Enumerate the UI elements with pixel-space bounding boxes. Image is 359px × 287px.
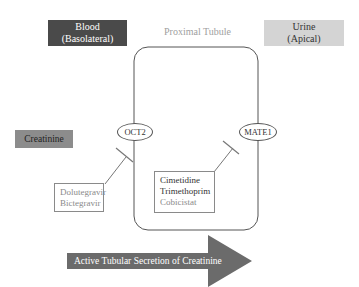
mate1-transporter: MATE1 — [239, 123, 277, 141]
drug-bictegravir: Bictegravir — [60, 198, 98, 209]
blood-basolateral-box: Blood (Basolateral) — [48, 20, 127, 46]
drug-dolutegravir: Dolutegravir — [60, 187, 98, 198]
proximal-tubule-label: Proximal Tubule — [164, 26, 231, 37]
apical-label: (Apical) — [264, 33, 344, 45]
mate1-inhibitors-box: Cimetidine Trimethoprim Cobicistat — [154, 171, 215, 213]
drug-cobicistat: Cobicistat — [160, 197, 209, 208]
drug-cimetidine: Cimetidine — [160, 175, 209, 186]
secretion-arrow-label: Active Tubular Secretion of Creatinine — [74, 253, 222, 270]
urine-apical-box: Urine (Apical) — [264, 20, 344, 46]
oct2-inhibition-bar — [116, 148, 133, 162]
mate1-inhibition-line — [214, 148, 233, 172]
urine-label: Urine — [264, 21, 344, 33]
drug-trimethoprim: Trimethoprim — [160, 186, 209, 197]
basolateral-label: (Basolateral) — [48, 33, 127, 45]
blood-label: Blood — [48, 21, 127, 33]
oct2-transporter: OCT2 — [117, 123, 153, 141]
creatinine-box: Creatinine — [15, 130, 73, 148]
mate1-inhibition-bar — [223, 141, 239, 154]
oct2-inhibitors-box: Dolutegravir Bictegravir — [54, 183, 104, 212]
oct2-inhibition-line — [105, 157, 126, 184]
